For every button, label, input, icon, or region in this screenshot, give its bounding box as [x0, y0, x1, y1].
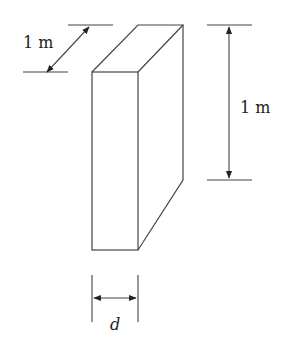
- height-label: 1 m: [240, 98, 270, 117]
- side-face: [138, 25, 183, 250]
- front-face: [92, 72, 138, 250]
- depth-label: 1 m: [23, 33, 53, 52]
- slab-diagram: 1 m 1 m d: [0, 0, 298, 350]
- thickness-label: d: [110, 315, 120, 334]
- top-face: [92, 25, 183, 72]
- slab-shape: [92, 25, 183, 250]
